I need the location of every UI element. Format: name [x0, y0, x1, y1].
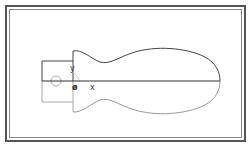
origin-label: ø: [72, 84, 78, 92]
shank-lower: [42, 81, 73, 102]
handle-drawing: [0, 0, 250, 149]
y-axis-label: y: [70, 65, 75, 73]
lower-profile: [73, 81, 220, 114]
upper-profile: [73, 48, 220, 81]
shank-upper: [42, 61, 73, 81]
fillet-arc: [73, 72, 80, 81]
x-axis-label: x: [90, 84, 95, 92]
